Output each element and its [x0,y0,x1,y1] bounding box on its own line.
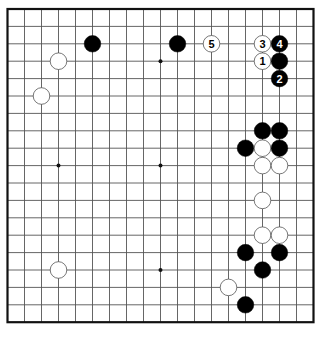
white-stone [50,53,67,70]
white-stone [254,227,271,244]
star-point [57,164,61,168]
white-stone [50,262,67,279]
white-stone [33,88,50,105]
star-point [159,268,163,272]
white-stone-circle [254,140,271,157]
white-stone-circle [254,157,271,174]
black-stone [271,244,288,261]
black-stone [169,36,186,53]
black-stone-circle [169,36,186,53]
white-stone-circle [50,53,67,70]
black-stone-circle [237,244,254,261]
black-stone [84,36,101,53]
go-board[interactable]: 53412 [0,0,324,337]
white-stone [271,157,288,174]
white-stone-circle [254,227,271,244]
black-stone [254,262,271,279]
white-stone-circle [50,262,67,279]
black-stone-circle [254,123,271,140]
black-stone [271,140,288,157]
white-stone-move-3: 3 [254,36,271,53]
star-point [159,164,163,168]
black-stone-circle [271,244,288,261]
white-stone-circle [271,227,288,244]
white-stone-circle [33,88,50,105]
black-stone-circle [254,262,271,279]
white-stone [271,227,288,244]
white-stone [254,192,271,209]
black-stone-circle [271,53,288,70]
black-stone-circle [84,36,101,53]
white-stone-move-1: 1 [254,53,271,70]
move-number-label: 1 [259,55,265,67]
white-stone-move-5: 5 [203,36,220,53]
black-stone-circle [237,140,254,157]
white-stone [220,279,237,296]
black-stone-circle [271,123,288,140]
white-stone [254,157,271,174]
move-number-label: 2 [276,73,282,85]
move-number-label: 5 [208,38,214,50]
black-stone [237,140,254,157]
black-stone [237,297,254,314]
move-number-label: 4 [276,38,283,50]
white-stone-circle [220,279,237,296]
black-stone [254,123,271,140]
black-stone-move-4: 4 [271,36,288,53]
black-stone [271,53,288,70]
black-stone-circle [237,297,254,314]
black-stone-move-2: 2 [271,70,288,87]
star-point [159,59,163,63]
move-number-label: 3 [259,38,265,50]
black-stone [237,244,254,261]
black-stone [271,123,288,140]
white-stone-circle [271,157,288,174]
black-stone-circle [271,140,288,157]
white-stone [254,140,271,157]
white-stone-circle [254,192,271,209]
